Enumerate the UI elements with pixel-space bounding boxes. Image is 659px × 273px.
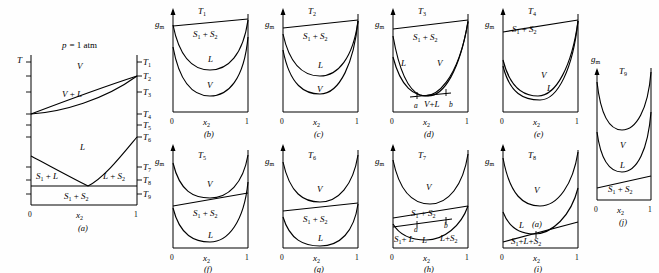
panel-g-xtick-1: 1 [355,253,359,262]
panel-d-solid-line [393,20,468,29]
panel-j-vapor-curve [597,72,651,130]
panel-h-y-label: gm [375,156,385,167]
panel-j-xtick-0: 0 [594,205,598,214]
temp-tick-T3: T3 [143,87,151,98]
panel-d-temperature: T3 [418,6,426,17]
panel-h-point-b: b [444,221,448,230]
figure-svg: T p= 1 atm T1 T [0,0,659,273]
panel-f-xtick-0: 0 [170,253,174,262]
panel-i-temperature: T8 [528,150,536,161]
panel-j-label-L: L [619,160,625,170]
panel-h-point-a: a [414,225,418,234]
panel-j-y-label: gm [591,54,601,65]
panel-e-axis-arrow [501,8,506,15]
panel-d-x-label: x2 [422,117,430,128]
panel-a-xtick-1: 1 [134,210,138,219]
panel-a-temperature-labels: T1 T2 T3 T4 T5 T6 T7 T8 T9 [143,57,151,200]
panel-e-xtick-0: 0 [500,117,504,126]
temp-tick-T4: T4 [143,109,151,120]
panel-a-region-VL: V + L [62,89,82,99]
panel-e-temperature: T4 [528,6,536,17]
panel-i-point-a: (a) [532,219,542,229]
panel-h-label-S1S2: S1 + S2 [411,208,436,219]
panel-f-label-L: L [207,230,213,240]
panel-f-axis-arrow [171,144,176,151]
panel-d-point-b: b [449,100,453,109]
panel-d-point-a: a [414,101,418,110]
panel-a-vapor-boundary [31,76,137,114]
panel-f-temperature: T5 [198,150,206,161]
panel-f-solid-line [173,193,248,206]
panel-b-axis-arrow [171,8,176,15]
panel-a-xtick-0: 0 [28,210,32,219]
panel-d-xtick-1: 1 [465,117,469,126]
panel-c-x-label: x2 [312,117,320,128]
panel-g-temperature: T6 [308,150,316,161]
panel-j: gm T9 V L S1 + S2 0 1 x2 (j) [591,54,652,227]
panel-c-y-label: gm [265,19,275,30]
panel-a-region-V: V [77,61,84,71]
panel-f-label-S1S2: S1 + S2 [193,208,218,219]
panel-a-y-label: T [17,55,23,65]
panel-b-x-label: x2 [202,117,210,128]
panel-a-region-L: L [79,142,85,152]
panel-e-xtick-1: 1 [575,117,579,126]
panel-f-letter: (f) [204,264,212,273]
panel-d-label-V: V [437,58,444,68]
panel-g: gm T6 V S1 + S2 L 0 1 x2 (g) [265,144,359,273]
panel-d: gm T3 S1 + S2 L V a V+L b 0 1 x2 (d) [375,6,469,139]
panel-h: gm T7 V S1 + S2 a b S1+ L L L+S2 0 1 x2 … [375,144,469,273]
panel-g-label-S1S2: S1 + S2 [303,214,328,225]
panel-e-y-label: gm [485,19,495,30]
panel-f: gm T5 V S1 + S2 L 0 1 x2 (f) [155,144,249,273]
panel-c-solid-line [283,20,358,28]
panel-i-label-V: V [534,185,541,195]
figure-container: T p= 1 atm T1 T [0,0,659,273]
panel-f-vapor-curve [173,155,248,198]
panel-i-vapor-curve [503,152,578,206]
temp-tick-T9: T9 [143,189,151,200]
panel-b-label-S1S2: S1 + S2 [193,29,218,40]
panel-f-x-label: x2 [202,253,210,264]
panel-h-xtick-1: 1 [465,253,469,262]
panel-j-xtick-1: 1 [648,205,652,214]
panel-h-label-L: L [421,235,427,245]
panel-e: gm T4 S1 + S2 V L 0 1 x2 (e) [485,6,579,139]
panel-b-label-V: V [207,80,214,90]
panel-f-xtick-1: 1 [245,253,249,262]
panel-i-y-label: gm [485,156,495,167]
panel-g-label-L: L [317,233,323,243]
panel-e-label-S1S2: S1 + S2 [512,24,537,35]
panel-i-label-S1LS2: S1+L+S2 [511,236,541,247]
panel-f-label-V: V [207,179,214,189]
panel-j-label-V: V [620,140,627,150]
panel-b-xtick-1: 1 [245,117,249,126]
panel-d-label-VL: V+L [424,99,440,109]
panel-e-letter: (e) [534,129,544,139]
panel-e-x-label: x2 [532,117,540,128]
panel-i: gm T8 V L (a) S1+L+S2 0 1 x2 (i) [485,144,579,273]
panel-a-pressure-note: p= 1 atm [61,40,97,50]
panel-i-label-L: L [518,220,524,230]
panel-e-label-L: L [546,83,552,93]
panel-b-temperature: T1 [198,6,206,17]
panel-b-y-label: gm [155,19,165,30]
panel-b-xtick-0: 0 [170,117,174,126]
panel-g-label-V: V [317,184,324,194]
panel-d-letter: (d) [424,129,434,139]
panel-j-x-label: x2 [616,205,624,216]
panel-a-x-label: x2 [75,210,83,221]
panel-f-y-label: gm [155,156,165,167]
panel-c: gm T2 S1 + S2 L V 0 1 x2 (c) [265,6,359,139]
panel-i-xtick-0: 0 [500,253,504,262]
pressure-symbol: p [61,40,67,50]
panel-c-letter: (c) [314,129,324,139]
panel-b-letter: (b) [204,129,214,139]
panel-i-axis-arrow [501,144,506,151]
panel-b-solid-line [173,19,248,26]
panel-b-label-L: L [207,54,213,64]
panel-i-xtick-1: 1 [575,253,579,262]
panel-h-letter: (h) [424,264,434,273]
panel-a-region-S1S2: S1 + S2 [64,191,89,202]
panel-h-label-LS2: L+S2 [439,233,458,244]
